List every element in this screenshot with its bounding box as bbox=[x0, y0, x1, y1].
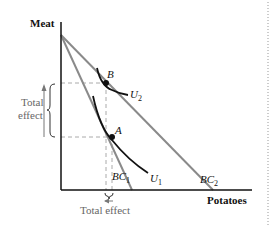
vertical-brace-icon bbox=[47, 84, 55, 137]
bc1-label: BC1 bbox=[112, 170, 130, 185]
u1-label: U1 bbox=[150, 172, 162, 187]
point-a-label: A bbox=[114, 124, 122, 136]
horizontal-effect-label: Total effect bbox=[80, 204, 130, 216]
vertical-effect-label-line2: effect bbox=[18, 109, 43, 121]
vertical-total-effect-annotation: Total effect bbox=[18, 84, 55, 137]
bc2-label-sub: 2 bbox=[214, 179, 218, 188]
y-axis-label: Meat bbox=[30, 17, 55, 29]
horizontal-brace-icon bbox=[105, 193, 113, 199]
x-axis-label: Potatoes bbox=[207, 194, 247, 206]
u2-label-sub: 2 bbox=[138, 94, 142, 103]
u1-label-sub: 1 bbox=[158, 178, 162, 187]
bc1-label-sub: 1 bbox=[126, 176, 130, 185]
bc2-label-base: BC bbox=[200, 173, 215, 185]
bc1-label-base: BC bbox=[112, 170, 127, 182]
point-b-marker bbox=[103, 80, 109, 86]
consumer-choice-diagram: Meat Potatoes B A U2 U1 BC1 BC2 Total ef… bbox=[0, 0, 271, 227]
u2-label: U2 bbox=[130, 88, 142, 103]
dashed-guides bbox=[61, 83, 112, 190]
arrow-left-icon bbox=[104, 199, 109, 204]
budget-line-bc2 bbox=[61, 35, 213, 190]
horizontal-total-effect-annotation: Total effect bbox=[80, 193, 130, 216]
vertical-effect-label-line1: Total bbox=[21, 96, 43, 108]
arrow-up-icon bbox=[42, 84, 47, 91]
point-b-label: B bbox=[107, 68, 114, 80]
